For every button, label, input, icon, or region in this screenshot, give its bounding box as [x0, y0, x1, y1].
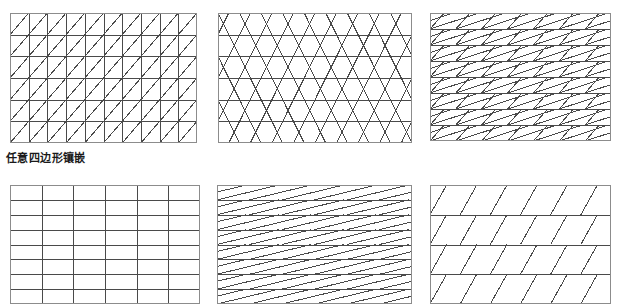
tessellation-panel-square-grid: [10, 13, 197, 143]
figure-caption: 任意四边形镶嵌: [6, 152, 86, 166]
tessellation-panel-parallelograms: [430, 185, 611, 304]
tessellation-panel-equilateral-triangles: [218, 13, 412, 143]
tessellation-panel-oblique-thin-triangles: [430, 13, 611, 141]
tessellation-panel-shallow-triangles: [217, 185, 412, 304]
tessellation-panel-rectangular-grid: [10, 185, 200, 304]
figure-page: 任意四边形镶嵌: [0, 0, 620, 304]
